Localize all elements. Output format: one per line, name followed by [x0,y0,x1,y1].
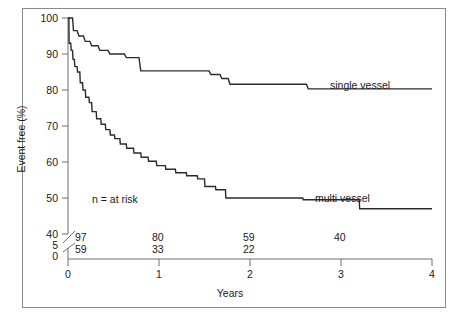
at-risk-single-t2: 59 [243,231,255,243]
x-tick-label-1: 1 [144,268,174,280]
y-tick-label-50: 50 [22,192,58,204]
curve-multi-vessel [68,18,432,209]
at-risk-multi-t1: 33 [152,243,164,255]
curve-label-multi-vessel: multi vessel [315,192,370,204]
at-risk-single-t0: 97 [75,231,87,243]
y-tick-marks [62,18,68,234]
y-tick-label-70: 70 [22,120,58,132]
y-tick-label-90: 90 [22,48,58,60]
y-tick-label-100: 100 [22,12,58,24]
at-risk-multi-t0: 59 [75,243,87,255]
axis-break-mark-upper [63,231,75,243]
x-tick-label-2: 2 [235,268,265,280]
x-tick-label-4: 4 [417,268,447,280]
figure-container: 100 90 80 70 60 50 40 5 0 0 1 2 3 4 Even… [0,0,461,318]
y-tick-label-80: 80 [22,84,58,96]
x-tick-label-3: 3 [326,268,356,280]
y-tick-label-0: 0 [22,250,58,262]
axis-break-mark-lower [63,243,75,252]
y-tick-label-60: 60 [22,156,58,168]
x-tick-marks [68,259,432,266]
x-tick-label-0: 0 [53,268,83,280]
y-axis-title: Event free (%) [15,91,27,187]
curve-label-single-vessel: single vessel [330,79,390,91]
at-risk-single-t1: 80 [152,231,164,243]
at-risk-multi-t2: 22 [243,243,255,255]
at-risk-single-t3: 40 [334,231,346,243]
x-axis-title: Years [180,287,280,299]
at-risk-annotation-label: n = at risk [92,193,138,205]
